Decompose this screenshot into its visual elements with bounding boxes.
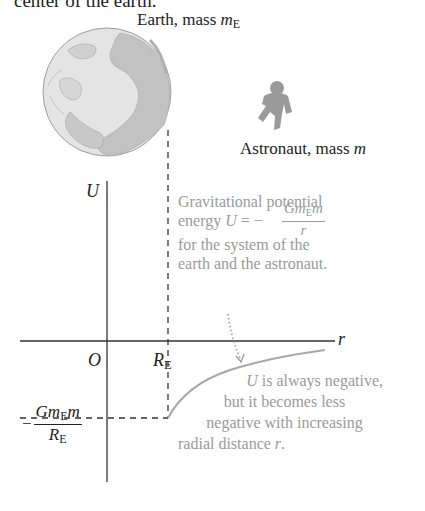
annotation-potential-energy: Gravitational potential energy U = − GmE…: [178, 192, 327, 273]
annotation-bottom-line2: but it becomes less: [184, 391, 385, 412]
min-energy-den-sub: E: [59, 432, 66, 446]
annotation-frac-den: r: [282, 221, 325, 239]
earth-label-text: Earth, mass: [137, 10, 221, 29]
annotation-frac-m: m: [312, 200, 323, 216]
annotation-top-line4: earth and the astronaut.: [178, 254, 327, 273]
annotation-bottom-line4-text: radial distance: [178, 435, 275, 452]
min-energy-num-g: Gm: [36, 402, 61, 421]
radius-var: R: [153, 350, 164, 370]
u-axis-label: U: [86, 181, 99, 202]
annotation-top-energy-word: energy: [178, 212, 225, 229]
astronaut-label: Astronaut, mass m: [240, 139, 366, 159]
annotation-bottom-period: .: [281, 435, 285, 452]
min-energy-sign: −: [22, 414, 32, 433]
annotation-top-fraction: GmEm r: [282, 200, 325, 239]
pointer-arrow-icon: [228, 314, 244, 362]
earth-radius-label: RE: [153, 350, 172, 373]
astronaut-label-text: Astronaut, mass: [240, 139, 354, 158]
radius-sub: E: [164, 358, 172, 372]
earth-mass-sub: E: [233, 17, 240, 31]
earth-mass-var: m: [221, 10, 233, 29]
annotation-frac-g: Gm: [284, 200, 306, 216]
annotation-top-equals: = −: [237, 212, 263, 229]
annotation-bottom-line1: U is always negative,: [190, 370, 385, 391]
astronaut-mass-var: m: [354, 139, 366, 158]
annotation-top-line2: energy U = − GmEm r: [178, 211, 327, 235]
min-energy-fraction: GmEm RE: [34, 402, 82, 447]
astronaut-icon: [258, 81, 292, 130]
earth-globe-icon: [43, 28, 171, 156]
earth-label: Earth, mass mE: [137, 10, 240, 32]
annotation-bottom-line3: negative with increasing: [184, 412, 385, 433]
min-energy-num-m: m: [67, 402, 79, 421]
min-energy-label: − GmEm RE: [22, 402, 82, 447]
annotation-top-u-var: U: [225, 212, 237, 229]
annotation-bottom-line1-text: is always negative,: [258, 372, 383, 389]
annotation-bottom-u-var: U: [246, 372, 258, 389]
origin-label: O: [88, 350, 101, 371]
annotation-bottom-line4: radial distance r.: [178, 433, 385, 454]
min-energy-den-var: R: [49, 425, 59, 444]
r-axis-label: r: [338, 329, 345, 350]
annotation-negative-energy: U is always negative, but it becomes les…: [190, 370, 385, 454]
